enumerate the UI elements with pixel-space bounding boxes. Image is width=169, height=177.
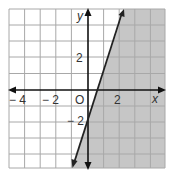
inequality-graph: y x − 4 − 2 O 2 2 − 2: [0, 0, 169, 177]
y-tick-label-neg2: − 2: [67, 114, 84, 128]
x-tick-label-neg2: − 2: [42, 93, 59, 107]
x-tick-label-neg4: − 4: [9, 93, 26, 107]
y-axis-label: y: [76, 9, 84, 23]
x-tick-label-2: 2: [114, 93, 121, 107]
y-tick-label-2: 2: [76, 51, 83, 65]
origin-label: O: [75, 93, 84, 107]
x-axis-label: x: [151, 92, 159, 106]
